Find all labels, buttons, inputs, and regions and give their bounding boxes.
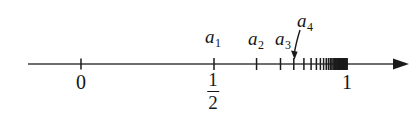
one-label: 1 <box>342 72 352 92</box>
term-base-a2: a <box>248 28 258 49</box>
axis-arrowhead-icon <box>393 59 409 70</box>
term-label-a2: a2 <box>248 29 264 51</box>
term-label-a3: a3 <box>275 29 291 51</box>
a4-pointer-arrow <box>291 30 300 60</box>
term-subscript-a4: 4 <box>307 20 313 34</box>
axis-line-group <box>28 59 409 70</box>
one-half-label: 1 2 <box>207 70 219 113</box>
fraction-numerator: 1 <box>207 70 219 90</box>
term-label-a4: a4 <box>297 11 313 33</box>
term-subscript-a1: 1 <box>215 36 221 50</box>
number-line-figure: 0 1 1 2 a1 a2 a3 a4 <box>0 0 420 113</box>
fraction-denominator: 2 <box>207 93 219 113</box>
term-base-a4: a <box>297 10 307 31</box>
zero-label: 0 <box>76 72 86 92</box>
term-label-a1: a1 <box>205 27 221 49</box>
term-subscript-a3: 3 <box>285 38 291 52</box>
term-base-a3: a <box>275 28 285 49</box>
term-base-a1: a <box>205 26 215 47</box>
term-subscript-a2: 2 <box>258 38 264 52</box>
